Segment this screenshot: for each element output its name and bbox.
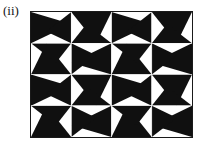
tessellation-tile [31, 43, 71, 74]
tessellation-canvas [31, 12, 192, 137]
tessellation-tile [31, 12, 71, 43]
tessellation-tile [71, 75, 111, 106]
tessellation-tile [112, 43, 152, 74]
figure-label: (ii) [3, 4, 19, 18]
tessellation-tile [71, 106, 111, 137]
tessellation-tile [71, 12, 111, 43]
tessellation-tile [31, 75, 71, 106]
tessellation-frame [30, 11, 193, 138]
tessellation-tile [112, 75, 152, 106]
figure-root: (ii) [0, 0, 206, 152]
tessellation-tile [71, 43, 111, 74]
tessellation-tile [112, 12, 152, 43]
tessellation-tile [31, 106, 71, 137]
tessellation-tile [152, 75, 192, 106]
tessellation-tile [152, 12, 192, 43]
tessellation-tile [112, 106, 152, 137]
tessellation-tile [152, 43, 192, 74]
tessellation-tile [152, 106, 192, 137]
